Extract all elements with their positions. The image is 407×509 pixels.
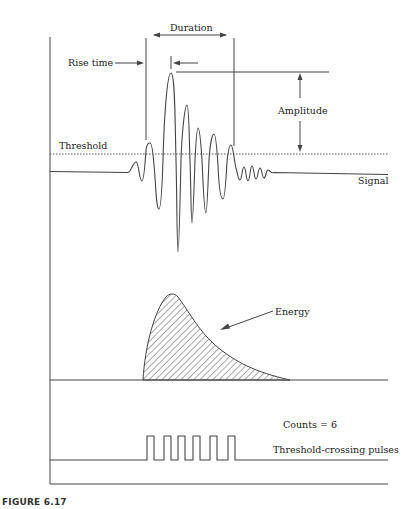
amplitude-arrow-up-head (298, 73, 303, 80)
duration-label: Duration (170, 22, 213, 33)
energy-area (143, 294, 290, 380)
counts-label: Counts = 6 (283, 419, 337, 430)
duration-arrow-right-head (220, 33, 227, 38)
signal-label: Signal (358, 175, 388, 186)
figure-caption: FIGURE 6.17 (2, 497, 67, 507)
signal-waveform (50, 73, 388, 252)
rise-time-arrow-left-head (137, 61, 144, 66)
energy-pointer-line (226, 311, 273, 328)
rise-time-arrow-right-head (173, 61, 180, 66)
ae-signal-diagram: Duration Rise time Amplitude Threshold S… (0, 0, 407, 509)
pulses-label: Threshold-crossing pulses (273, 444, 399, 455)
rise-time-label: Rise time (68, 57, 114, 68)
energy-pointer-head (220, 324, 230, 331)
amplitude-arrow-down-head (298, 145, 303, 152)
threshold-label: Threshold (59, 140, 107, 151)
duration-arrow-left-head (153, 33, 160, 38)
amplitude-label: Amplitude (277, 105, 328, 116)
energy-label: Energy (275, 306, 310, 317)
